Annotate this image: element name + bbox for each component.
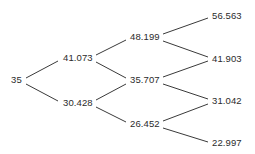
- tree-node-value: 22.997: [212, 138, 242, 148]
- tree-node-value: 41.903: [212, 54, 242, 64]
- tree-edge: [163, 84, 208, 99]
- tree-edge: [163, 61, 208, 77]
- tree-node-value: 41.073: [63, 53, 93, 63]
- binomial-tree-diagram: 3541.07330.42848.19935.70726.45256.56341…: [0, 0, 255, 154]
- tree-node-value: 30.428: [63, 98, 93, 108]
- tree-node-value: 31.042: [212, 96, 242, 106]
- tree-edge: [26, 61, 58, 78]
- tree-edge: [163, 128, 208, 142]
- tree-edge: [163, 104, 208, 121]
- tree-edges-layer: [0, 0, 255, 154]
- tree-node-value: 26.452: [130, 119, 160, 129]
- tree-node-value: 35.707: [130, 75, 160, 85]
- tree-edge: [96, 62, 126, 78]
- tree-node-value: 56.563: [212, 11, 242, 21]
- tree-edge: [26, 84, 58, 101]
- tree-node-value: 35: [11, 75, 22, 85]
- tree-edge: [163, 18, 208, 34]
- tree-edge: [96, 107, 126, 122]
- tree-edge: [96, 84, 126, 100]
- tree-edge: [96, 40, 126, 55]
- tree-edge: [163, 41, 208, 57]
- tree-node-value: 48.199: [130, 32, 160, 42]
